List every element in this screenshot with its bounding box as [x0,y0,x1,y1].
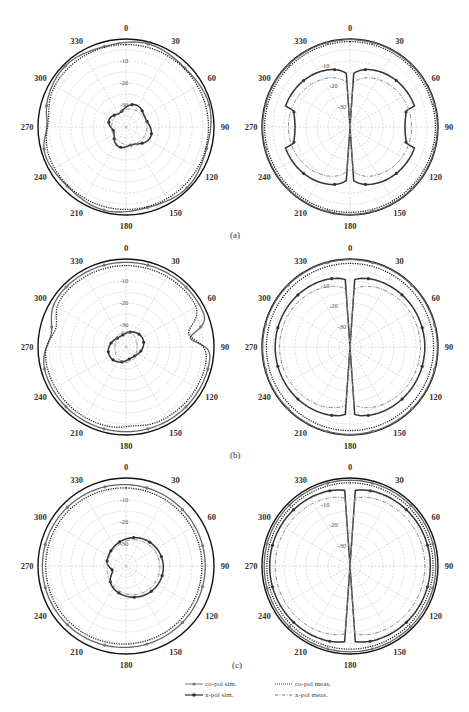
angle-tick-label: 330 [70,256,83,266]
angle-tick-label: 180 [344,441,357,451]
angle-tick-label: 150 [393,208,406,218]
radial-tick-label: -10 [120,496,129,503]
angle-tick-label: 300 [258,512,271,522]
angle-tick-label: 300 [34,512,47,522]
radial-tick-label: -20 [329,302,338,309]
legend-label: co-pol meas. [295,680,331,688]
legend-co-pol-meas: co-pol meas. [275,680,365,688]
angle-tick-label: 180 [344,221,357,231]
angle-tick-label: 240 [34,392,47,402]
angle-tick-label: 30 [395,475,404,485]
angle-tick-label: 150 [169,647,182,657]
angle-tick-label: 180 [120,221,133,231]
angle-tick-label: 0 [124,23,128,33]
angle-tick-label: 30 [171,475,180,485]
legend-label: x-pol sim. [205,691,233,699]
angle-tick-label: 120 [205,172,218,182]
angle-tick-label: 60 [431,293,440,303]
radial-tick-label: -10 [120,57,129,64]
angle-tick-label: 60 [207,73,216,83]
polar-plot-6: 0306090120150180210240270300330-10-20-30 [245,462,454,670]
angle-tick-label: 270 [21,561,34,571]
angle-tick-label: 210 [294,428,307,438]
angle-tick-label: 300 [34,73,47,83]
angle-tick-label: 120 [429,611,442,621]
legend-label: x-pol meas. [295,691,328,699]
angle-tick-label: 150 [169,208,182,218]
series-x-pol-meas- [275,497,425,635]
angle-tick-label: 210 [70,428,83,438]
angle-tick-label: 60 [431,73,440,83]
radial-tick-label: -20 [120,79,129,86]
angle-tick-label: 120 [429,172,442,182]
angle-tick-label: 330 [70,36,83,46]
radial-tick-label: -10 [120,277,129,284]
angle-tick-label: 120 [429,392,442,402]
solid-marker-line-icon [185,681,203,687]
radial-tick-label: -30 [337,542,346,549]
angle-tick-label: 90 [221,561,230,571]
angle-tick-label: 120 [205,611,218,621]
legend-co-pol-sim: co-pol sim. [185,680,275,688]
angle-tick-label: 300 [258,73,271,83]
angle-tick-label: 270 [21,122,34,132]
angle-tick-label: 240 [34,172,47,182]
angle-tick-label: 0 [124,462,128,472]
angle-tick-label: 270 [21,342,34,352]
angle-tick-label: 210 [294,208,307,218]
radial-tick-label: -20 [120,299,129,306]
angle-tick-label: 0 [348,23,352,33]
angle-tick-label: 330 [294,36,307,46]
angle-tick-label: 240 [258,172,271,182]
dotted-line-icon [275,681,293,687]
radial-tick-label: -30 [120,321,129,328]
legend-x-pol-sim: x-pol sim. [185,691,275,699]
legend: co-pol sim. co-pol meas. x-pol sim. x-po… [185,678,365,700]
angle-tick-label: 240 [258,392,271,402]
angle-tick-label: 150 [393,428,406,438]
panel-label-c: (c) [232,660,242,670]
solid-marker-dark-line-icon [185,692,203,698]
angle-tick-label: 60 [431,512,440,522]
angle-tick-label: 210 [294,647,307,657]
angle-tick-label: 30 [171,36,180,46]
angle-tick-label: 270 [245,561,258,571]
radial-tick-label: -10 [321,501,330,508]
angle-tick-label: 90 [445,342,454,352]
angle-tick-label: 210 [70,647,83,657]
polar-plot-4: 0306090120150180210240270300330-10-20-30 [245,243,454,451]
angle-tick-label: 0 [124,243,128,253]
angle-tick-label: 330 [294,475,307,485]
angle-tick-label: 180 [120,660,133,670]
angle-tick-label: 60 [207,293,216,303]
angle-tick-label: 330 [70,475,83,485]
angle-tick-label: 240 [34,611,47,621]
radial-tick-label: -20 [329,82,338,89]
legend-x-pol-meas: x-pol meas. [275,691,365,699]
angle-tick-label: 180 [120,441,133,451]
radial-tick-label: -30 [337,323,346,330]
angle-tick-label: 0 [348,243,352,253]
dash-dot-line-icon [275,692,293,698]
angle-tick-label: 90 [445,561,454,571]
angle-tick-label: 210 [70,208,83,218]
legend-label: co-pol sim. [205,680,237,688]
radial-tick-label: -10 [321,62,330,69]
polar-plot-2: 0306090120150180210240270300330-10-20-30 [245,23,454,231]
angle-tick-label: 300 [258,293,271,303]
radial-tick-label: -20 [329,521,338,528]
angle-tick-label: 300 [34,293,47,303]
angle-tick-label: 90 [221,342,230,352]
panel-label-b: (b) [230,450,241,460]
angle-tick-label: 30 [171,256,180,266]
angle-tick-label: 150 [169,428,182,438]
angle-tick-label: 150 [393,647,406,657]
angle-tick-label: 270 [245,342,258,352]
panel-label-a: (a) [230,230,240,240]
angle-tick-label: 60 [207,512,216,522]
angle-tick-label: 30 [395,36,404,46]
angle-tick-label: 90 [445,122,454,132]
polar-plot-5: 0306090120150180210240270300330-10-20-30 [21,462,230,670]
angle-tick-label: 0 [348,462,352,472]
angle-tick-label: 30 [395,256,404,266]
